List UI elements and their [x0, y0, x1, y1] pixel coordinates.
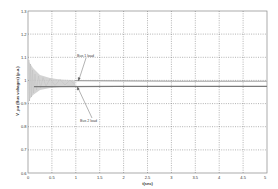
annotation-lower: Bus 2 load: [80, 119, 97, 123]
svg-text:1: 1: [24, 78, 27, 83]
y-axis-label: V_pu (Bus voltages) (p.u.): [15, 66, 20, 116]
voltage-chart: Bus 1 load Bus 2 load 1.3 1.2 1.1 1 0.9 …: [0, 0, 278, 189]
y-tick-labels: 1.3 1.2 1.1 1 0.9 0.8 0.7 0.6: [21, 9, 27, 176]
svg-text:1.1: 1.1: [21, 55, 27, 60]
svg-text:5: 5: [264, 175, 267, 180]
svg-text:4.5: 4.5: [240, 175, 246, 180]
x-axis-label: t(sec): [142, 181, 153, 186]
svg-text:0.8: 0.8: [21, 124, 27, 129]
svg-text:0.9: 0.9: [21, 101, 27, 106]
svg-text:0.7: 0.7: [21, 147, 27, 152]
svg-text:2: 2: [122, 175, 125, 180]
svg-text:1.2: 1.2: [21, 32, 27, 37]
svg-text:2.5: 2.5: [145, 175, 151, 180]
x-tick-labels: 0 0.5 1 1.5 2 2.5 3 3.5 4 4.5 5: [27, 175, 267, 180]
svg-text:3: 3: [170, 175, 173, 180]
svg-text:0.5: 0.5: [49, 175, 55, 180]
svg-text:1.3: 1.3: [21, 9, 27, 14]
svg-text:3.5: 3.5: [193, 175, 199, 180]
annotation-upper: Bus 1 load: [77, 54, 94, 58]
svg-text:0: 0: [27, 175, 30, 180]
svg-text:1.5: 1.5: [97, 175, 103, 180]
svg-text:4: 4: [218, 175, 221, 180]
svg-text:1: 1: [75, 175, 78, 180]
